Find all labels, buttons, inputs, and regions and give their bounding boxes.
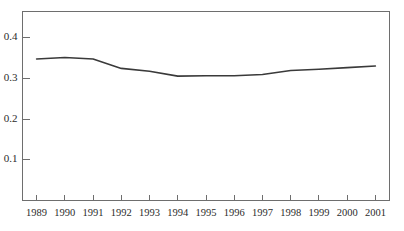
x-tick-label: 1993 <box>139 207 160 218</box>
x-tick-label: 1990 <box>54 207 75 218</box>
x-tick-label: 1992 <box>111 207 132 218</box>
line-chart: 0.10.20.30.4 198919901991199219931994199… <box>0 0 404 231</box>
y-tick-label: 0.3 <box>4 71 18 83</box>
series-line <box>37 57 376 76</box>
x-tick-label: 1991 <box>83 207 104 218</box>
x-tick-label: 1999 <box>308 207 329 218</box>
plot-border <box>23 12 390 201</box>
chart-canvas: 0.10.20.30.4 198919901991199219931994199… <box>0 0 404 231</box>
x-tick-label: 1996 <box>224 207 245 218</box>
data-series <box>37 57 376 76</box>
x-tick-label: 1995 <box>196 207 217 218</box>
x-tick-label: 1994 <box>167 207 189 218</box>
x-tick-label: 1989 <box>26 207 47 218</box>
y-tick-label: 0.4 <box>4 30 18 42</box>
x-tick-label: 2001 <box>365 207 386 218</box>
x-tick-label: 1998 <box>280 207 301 218</box>
x-tick-label: 1997 <box>252 207 273 218</box>
y-tick-label: 0.2 <box>4 112 18 124</box>
plot-frame <box>23 12 390 201</box>
x-tick-label: 2000 <box>337 207 358 218</box>
y-axis: 0.10.20.30.4 <box>4 30 30 164</box>
x-axis: 1989199019911992199319941995199619971998… <box>26 195 386 218</box>
y-tick-label: 0.1 <box>4 152 18 164</box>
